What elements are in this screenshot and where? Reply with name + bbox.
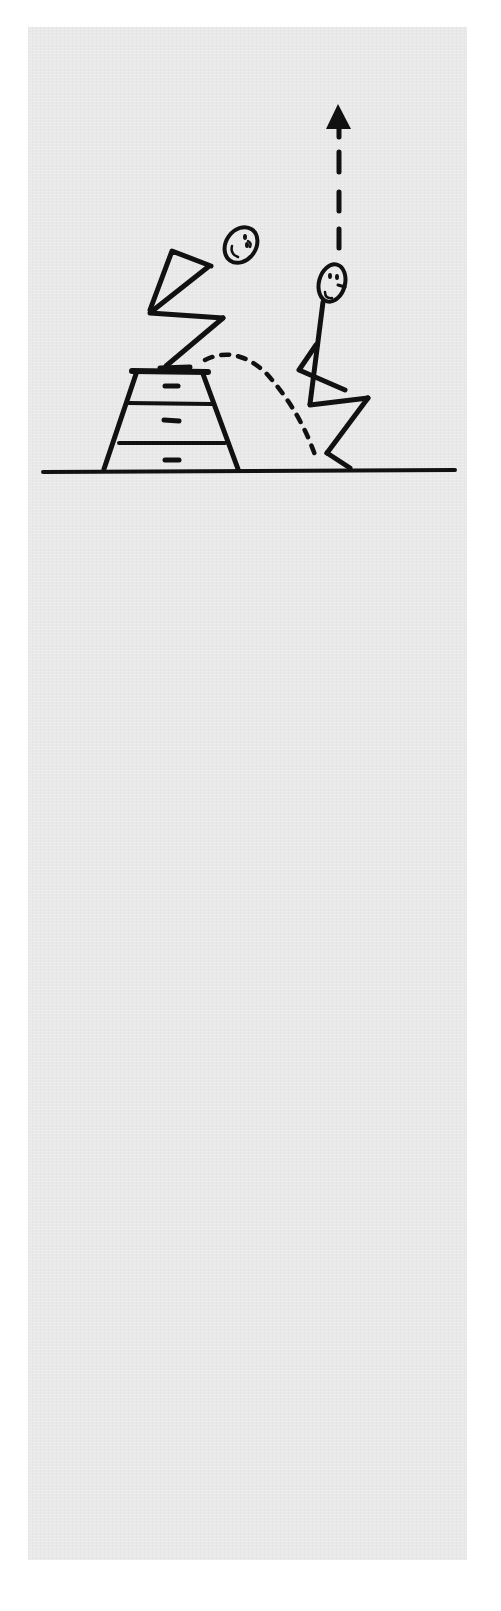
head-icon xyxy=(218,221,264,269)
head-icon xyxy=(315,261,350,304)
stick-figure-on-box xyxy=(150,221,264,368)
box-handle-icon xyxy=(164,420,179,421)
rebound-arrow-up-icon xyxy=(326,104,351,248)
plyo-box xyxy=(104,371,238,469)
box-jump-illustration xyxy=(0,0,501,1611)
